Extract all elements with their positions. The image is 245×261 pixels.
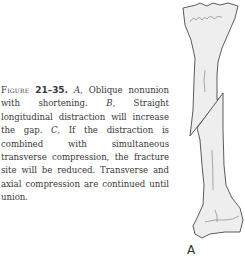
caption-part-c-letter: C, bbox=[51, 125, 60, 135]
figure-label: Figure bbox=[1, 85, 29, 95]
caption-part-a-letter: A, bbox=[74, 85, 83, 95]
caption-part-c-text: If the distraction is combined with simu… bbox=[1, 125, 169, 202]
bone-illustration bbox=[170, 0, 245, 240]
caption-part-b-letter: B, bbox=[106, 98, 115, 108]
panel-label-a: A bbox=[187, 243, 195, 257]
figure-caption: Figure 21–35. A, Oblique nonunion with s… bbox=[1, 84, 169, 205]
figure-number: 21–35. bbox=[35, 85, 68, 95]
